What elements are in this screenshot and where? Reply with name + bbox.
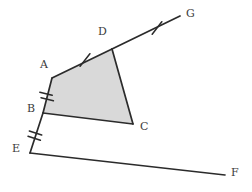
vertex-label-b: B	[27, 103, 35, 114]
vertex-label-f: F	[231, 167, 239, 178]
vertex-label-d: D	[98, 26, 107, 37]
vertex-label-a: A	[40, 59, 48, 70]
vertex-label-e: E	[12, 143, 20, 154]
vertex-label-c: C	[140, 121, 148, 132]
segment-EF	[30, 153, 225, 175]
segment-DG	[112, 16, 180, 49]
vertex-label-g: G	[186, 8, 195, 19]
geometry-figure: A B C D E F G	[0, 0, 252, 192]
geometry-canvas	[0, 0, 252, 192]
